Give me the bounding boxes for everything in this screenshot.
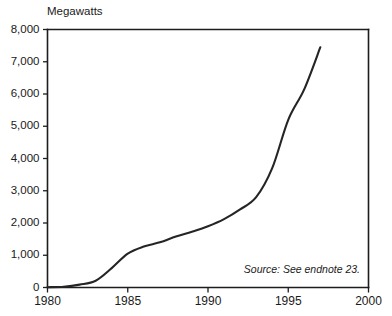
x-tick-label-1995: 1995 (275, 294, 302, 308)
x-tick-label-1985: 1985 (114, 294, 141, 308)
y-tick-label-5000: 5,000 (11, 119, 40, 131)
x-axis-tick-labels: 19801985199019952000 (34, 294, 382, 308)
y-axis-tick-labels: 01,0002,0003,0004,0005,0006,0007,0008,00… (11, 23, 40, 293)
y-tick-label-1000: 1,000 (11, 248, 40, 260)
y-tick-label-4000: 4,000 (11, 152, 40, 164)
x-tick-label-1980: 1980 (34, 294, 61, 308)
x-tick-label-1990: 1990 (195, 294, 222, 308)
y-tick-label-7000: 7,000 (11, 55, 40, 67)
y-tick-label-6000: 6,000 (11, 87, 40, 99)
y-tick-label-3000: 3,000 (11, 184, 40, 196)
line-chart: Megawatts 01,0002,0003,0004,0005,0006,00… (0, 0, 392, 316)
y-tick-label-0: 0 (33, 281, 39, 293)
y-tick-label-2000: 2,000 (11, 216, 40, 228)
chart-container: Megawatts 01,0002,0003,0004,0005,0006,00… (0, 0, 392, 316)
source-note: Source: See endnote 23. (244, 263, 360, 275)
x-tick-label-2000: 2000 (355, 294, 382, 308)
data-series-line (48, 47, 321, 287)
y-axis-title: Megawatts (47, 5, 103, 17)
y-tick-label-8000: 8,000 (11, 23, 40, 35)
